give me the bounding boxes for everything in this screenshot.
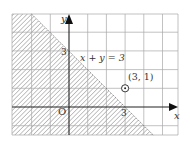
x-tick-label-3: 3 xyxy=(121,108,127,118)
inequality-graph: y x O 3 3 x + y = 3 (3, 1) xyxy=(0,0,190,149)
y-tick-label-3: 3 xyxy=(61,47,67,57)
origin-label: O xyxy=(58,106,66,117)
point-label: (3, 1) xyxy=(128,71,154,82)
point-marker xyxy=(122,85,129,92)
x-axis-label: x xyxy=(174,110,180,121)
line-equation-label: x + y = 3 xyxy=(80,52,125,63)
y-axis-label: y xyxy=(60,13,67,24)
